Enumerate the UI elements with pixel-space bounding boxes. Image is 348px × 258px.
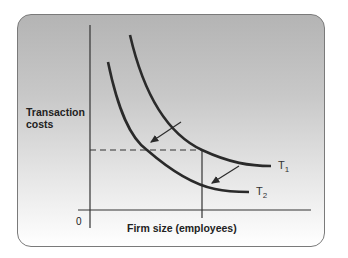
- origin-label: 0: [76, 216, 82, 227]
- t1-label: T1: [278, 159, 289, 174]
- t2-label-sub: 2: [263, 191, 267, 200]
- y-axis-label-line1: Transaction: [26, 106, 85, 118]
- t2-label: T2: [256, 185, 267, 200]
- y-axis-label-line2: costs: [26, 118, 85, 130]
- shift-arrow-lower: [212, 166, 239, 183]
- t1-label-main: T: [278, 159, 285, 171]
- t1-label-sub: 1: [285, 165, 289, 174]
- x-axis-label: Firm size (employees): [127, 222, 237, 234]
- t2-label-main: T: [256, 185, 263, 197]
- y-axis-label: Transaction costs: [26, 106, 85, 130]
- curve-t1: [130, 35, 271, 166]
